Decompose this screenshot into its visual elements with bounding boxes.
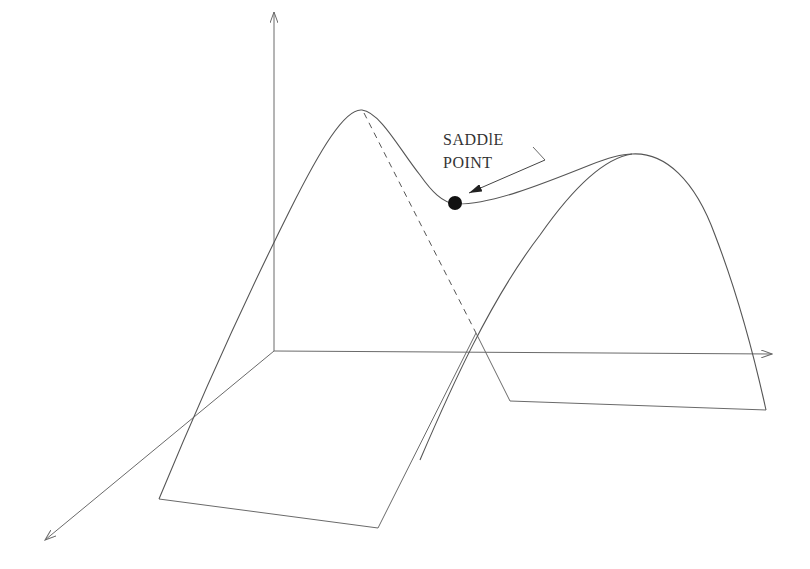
saddle-label-line2: POINT <box>443 151 504 174</box>
saddle-label-line1: SADDlE <box>443 128 504 151</box>
saddle-point-label: SADDlE POINT <box>443 128 504 174</box>
left-sheet-right-edge <box>378 333 476 528</box>
right-hump-curve <box>420 154 766 460</box>
left-hump-rising-curve <box>159 110 362 499</box>
right-sheet-left-edge <box>476 333 510 401</box>
left-sheet-bottom-edge <box>159 499 378 528</box>
right-sheet-bottom-edge <box>510 401 766 410</box>
saddle-point-diagram <box>0 0 810 569</box>
horizontal-axis <box>274 351 772 354</box>
saddle-point-marker <box>448 196 462 210</box>
depth-axis <box>45 351 274 540</box>
label-pointer-tick <box>533 147 545 160</box>
